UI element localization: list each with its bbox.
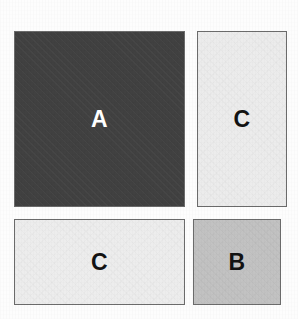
shape-block-c-bottom: C [14,219,185,305]
shape-label-a: A [91,108,108,131]
shape-label-b: B [228,251,245,274]
shape-block-c-top: C [197,31,287,207]
figure-canvas: A C C B [0,0,298,319]
shape-label-c-top: C [233,108,250,131]
shape-label-c-bottom: C [91,251,108,274]
shape-block-b: B [193,219,281,305]
shape-block-a: A [14,31,185,207]
